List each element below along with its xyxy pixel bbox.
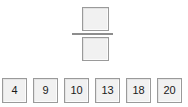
number-tile-tray: 4 9 10 13 18 20	[2, 77, 186, 103]
number-tile[interactable]: 10	[64, 78, 89, 103]
number-tile[interactable]: 20	[157, 78, 182, 103]
number-tile[interactable]: 18	[126, 78, 151, 103]
fraction-construct	[72, 7, 113, 63]
number-tile[interactable]: 13	[95, 78, 120, 103]
number-tile[interactable]: 9	[33, 78, 58, 103]
fraction-builder-widget: 4 9 10 13 18 20	[0, 0, 188, 107]
numerator-drop-slot[interactable]	[82, 7, 109, 31]
denominator-drop-slot[interactable]	[82, 37, 109, 61]
fraction-bar-icon	[72, 33, 113, 35]
number-tile[interactable]: 4	[2, 78, 27, 103]
